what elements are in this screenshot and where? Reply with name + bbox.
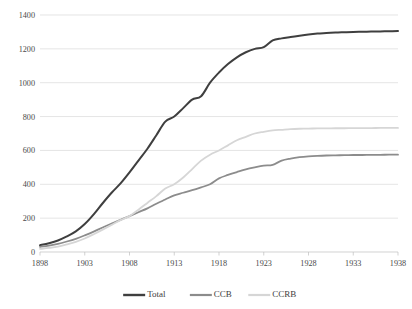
y-tick-label: 400 [23,180,35,189]
y-tick-label: 1000 [19,79,35,88]
y-tick-label: 0 [31,248,35,257]
x-tick-label: 1923 [256,259,272,268]
legend-item-ccrb[interactable]: CCRB [248,289,296,299]
x-tick-label: 1913 [166,259,182,268]
x-tick-label: 1938 [390,259,406,268]
data-series [40,31,398,249]
line-chart: 0200400600800100012001400 18981903190819… [0,0,412,309]
legend-item-ccb[interactable]: CCB [190,289,232,299]
x-tick-label: 1928 [300,259,316,268]
x-tick-label: 1918 [211,259,227,268]
y-tick-label: 1200 [19,45,35,54]
legend-item-total[interactable]: Total [123,289,166,299]
legend-label: CCB [214,289,232,299]
chart-legend: TotalCCBCCRB [123,289,296,299]
legend-label: Total [147,289,166,299]
x-tick-label: 1908 [121,259,137,268]
legend-label: CCRB [272,289,296,299]
y-tick-label: 200 [23,214,35,223]
y-tick-label: 1400 [19,11,35,20]
y-axis-tick-labels: 0200400600800100012001400 [19,11,35,257]
gridlines [40,15,398,252]
chart-canvas: 0200400600800100012001400 18981903190819… [0,0,412,309]
x-tick-label: 1933 [345,259,361,268]
x-tick-label: 1903 [77,259,93,268]
y-tick-label: 600 [23,146,35,155]
x-axis-tick-labels: 189819031908191319181923192819331938 [32,259,406,268]
series-line-ccb [40,155,398,247]
x-tick-label: 1898 [32,259,48,268]
series-line-total [40,31,398,245]
y-tick-label: 800 [23,113,35,122]
axis-ticks [40,252,398,256]
